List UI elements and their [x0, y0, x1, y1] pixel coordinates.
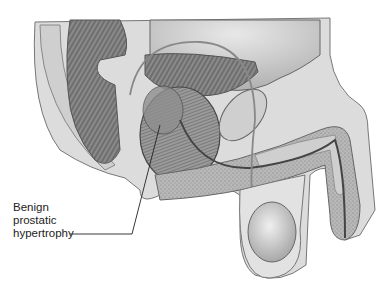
anatomy-illustration	[0, 0, 378, 285]
bph-label-line-3: hypertrophy	[13, 227, 74, 240]
prostate-lobe	[143, 86, 183, 134]
bph-label-line-1: Benign	[13, 201, 74, 214]
bph-label: Benign prostatic hypertrophy	[13, 201, 74, 240]
testis	[248, 202, 296, 262]
bph-label-line-2: prostatic	[13, 214, 74, 227]
